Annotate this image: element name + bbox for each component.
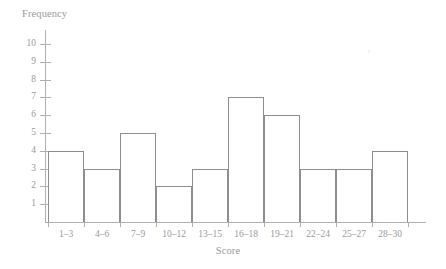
x-axis-tick (120, 222, 121, 227)
y-axis-tick (40, 80, 51, 81)
y-axis-line (45, 30, 46, 223)
x-axis-tick (156, 222, 157, 227)
x-axis-tick (228, 222, 229, 227)
y-axis-tick (40, 115, 51, 116)
x-axis-tick (336, 222, 337, 227)
y-axis-tick-label: 8 (18, 75, 36, 85)
histogram-bar (336, 169, 372, 222)
y-axis-tick (40, 62, 51, 63)
y-axis-tick-label: 9 (18, 57, 36, 67)
y-axis-title: Frequency (22, 8, 67, 19)
y-axis-tick-label: 4 (18, 146, 36, 156)
histogram-bar (48, 151, 84, 222)
x-axis-tick (264, 222, 265, 227)
histogram-bar (372, 151, 408, 222)
histogram-bar (228, 97, 264, 222)
y-axis-tick (40, 97, 51, 98)
x-axis-tick (372, 222, 373, 227)
y-axis-tick-label: 6 (18, 110, 36, 120)
image-speck (368, 50, 370, 53)
y-axis-tick-label: 10 (18, 39, 36, 49)
x-axis-tick (192, 222, 193, 227)
y-axis-tick-label: 2 (18, 181, 36, 191)
x-axis-title: Score (0, 245, 446, 256)
x-axis-line (45, 222, 426, 223)
histogram-bar (300, 169, 336, 222)
x-axis-tick (408, 222, 409, 227)
x-axis-tick (300, 222, 301, 227)
y-axis-tick-label: 1 (18, 199, 36, 209)
x-axis-tick (84, 222, 85, 227)
x-axis-tick-label: 28–30 (365, 230, 415, 240)
y-axis-tick (40, 133, 51, 134)
histogram-bar (120, 133, 156, 222)
y-axis-tick-label: 7 (18, 92, 36, 102)
x-axis-tick (48, 222, 49, 227)
y-axis-tick-label: 5 (18, 128, 36, 138)
y-axis-tick (40, 44, 51, 45)
histogram-bar (192, 169, 228, 222)
y-axis-tick-label: 3 (18, 164, 36, 174)
x-axis-title-text: Score (216, 245, 240, 256)
histogram-chart: Frequency 12345678910 1–34–67–910–1213–1… (0, 0, 446, 269)
histogram-bar (156, 186, 192, 222)
histogram-bar (264, 115, 300, 222)
histogram-bar (84, 169, 120, 222)
